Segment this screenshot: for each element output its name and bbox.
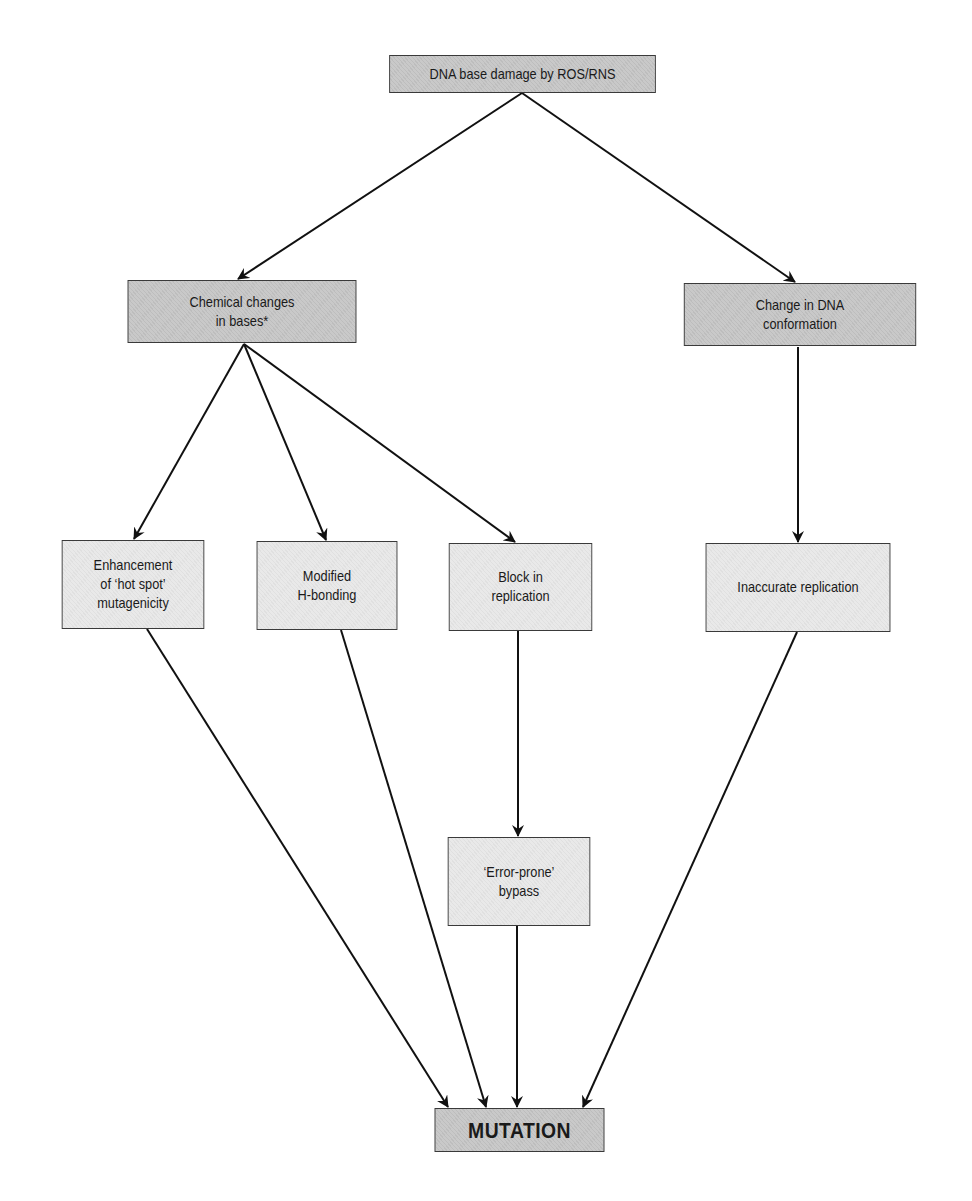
node-inaccurate-replication: Inaccurate replication (706, 543, 891, 632)
node-label: Enhancement of ‘hot spot’ mutagenicity (94, 556, 173, 613)
edge-inaccurate-mutation (583, 632, 797, 1107)
node-dna-base-damage: DNA base damage by ROS/RNS (389, 55, 656, 93)
node-block-in-replication: Block in replication (449, 543, 592, 631)
node-dna-conformation: Change in DNA conformation (684, 283, 916, 346)
node-label: DNA base damage by ROS/RNS (430, 65, 616, 84)
node-label: Block in replication (491, 568, 549, 606)
node-label: Inaccurate replication (737, 578, 858, 597)
edge-hotspot-mutation (147, 629, 448, 1107)
edge-root-conformation (522, 93, 795, 282)
node-label: Change in DNA conformation (756, 296, 845, 334)
node-chemical-changes: Chemical changes in bases* (128, 280, 357, 343)
node-label: Chemical changes in bases* (190, 293, 295, 331)
edge-chemical-hotspot (134, 344, 244, 539)
node-label: MUTATION (468, 1121, 571, 1140)
node-modified-h-bonding: Modified H-bonding (257, 541, 398, 630)
node-label: ‘Error-prone’ bypass (484, 863, 555, 901)
node-hot-spot-mutagenicity: Enhancement of ‘hot spot’ mutagenicity (62, 540, 205, 629)
edge-root-chemical (238, 93, 522, 279)
node-mutation: MUTATION (435, 1108, 605, 1152)
node-label: Modified H-bonding (298, 567, 357, 605)
node-error-prone-bypass: ‘Error-prone’ bypass (448, 837, 591, 926)
